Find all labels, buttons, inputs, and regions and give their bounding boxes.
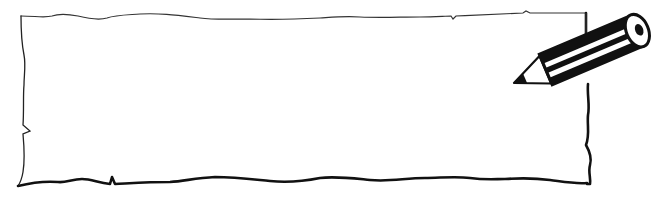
note-banner: Hand-drawn blank note paper frame with a… <box>0 0 658 200</box>
paper-sheet <box>21 13 592 185</box>
